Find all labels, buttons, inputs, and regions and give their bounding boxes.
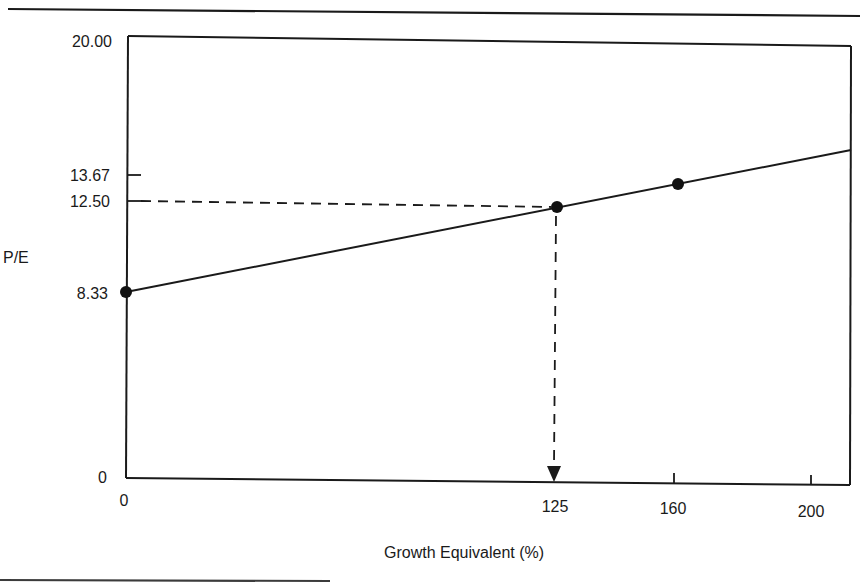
y-tick-label: 20.00	[72, 33, 112, 50]
x-axis	[126, 478, 850, 485]
y-tick-label: 13.67	[70, 167, 110, 184]
dashed-guide-horizontal	[141, 201, 551, 207]
y-tick-label: 0	[98, 469, 107, 486]
bottom-rule	[0, 580, 330, 581]
data-point-0	[120, 286, 132, 298]
pe-growth-chart: 20.00 13.67 12.50 8.33 0 P/E 0 125 160 2…	[0, 0, 860, 584]
data-point-125	[551, 201, 563, 213]
y-tick-label: 12.50	[70, 193, 110, 210]
data-point-160	[672, 178, 684, 190]
y-axis	[126, 36, 128, 478]
x-tick-label: 160	[660, 500, 687, 517]
dashed-guide-vertical	[554, 216, 556, 466]
y-axis-title: P/E	[3, 249, 29, 266]
plot-frame	[126, 36, 851, 485]
arrow-down-icon	[547, 466, 561, 482]
x-tick-label: 200	[798, 503, 825, 520]
x-tick-label: 0	[120, 492, 129, 509]
data-line	[126, 150, 851, 292]
top-rule	[8, 9, 860, 16]
x-tick-label: 125	[542, 498, 569, 515]
y-tick-label: 8.33	[77, 285, 108, 302]
y-axis-ticks	[127, 175, 141, 201]
x-axis-title: Growth Equivalent (%)	[384, 544, 544, 561]
